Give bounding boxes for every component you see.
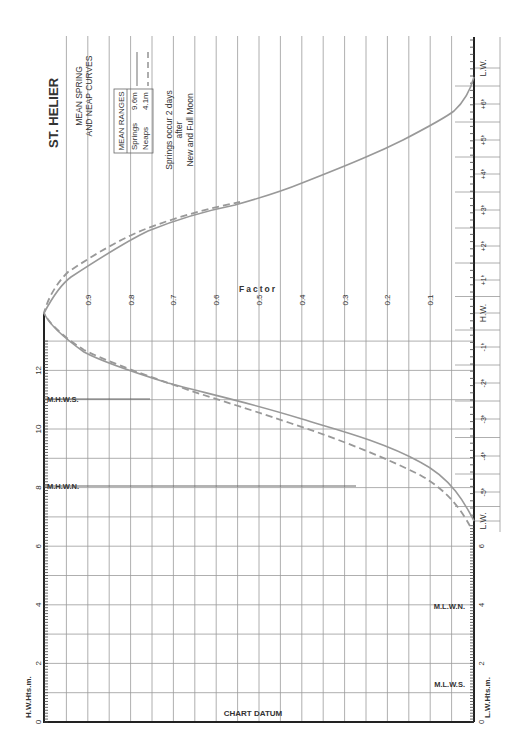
- neaps-curve: [44, 202, 470, 526]
- hw-height-tick-labels: 024681012: [34, 365, 43, 724]
- tidal-curve-chart: ST. HELIER MEAN SPRING AND NEAP CURVES M…: [0, 0, 527, 756]
- mhwn-marker: M.H.W.N.: [44, 482, 356, 491]
- legend-springs-label: Springs: [130, 123, 139, 150]
- chart-subtitle-1: MEAN SPRING: [74, 66, 84, 126]
- hw-height-tick-label: 8: [34, 485, 43, 490]
- time-tick-label-major: L.W.: [478, 512, 488, 529]
- lw-height-tick-label: 4: [477, 603, 486, 607]
- time-tick-label: +1ʰ: [480, 274, 487, 285]
- lw-height-tick-label: 2: [477, 661, 486, 665]
- time-tick-label: +6ʰ: [480, 98, 487, 109]
- note-line-1: Springs occur 2 days: [164, 90, 174, 169]
- mlwn-label: M.L.W.N.: [434, 602, 465, 611]
- mlws-label: M.L.W.S.: [434, 680, 465, 689]
- note-line-3: New and Full Moon: [185, 93, 195, 167]
- time-tick-label: -5ʰ: [480, 487, 487, 496]
- hw-height-tick-label: 2: [34, 661, 43, 666]
- factor-tick-label: 0.8: [127, 294, 136, 306]
- hw-height-tick-label: 6: [34, 543, 43, 548]
- factor-tick-labels: 0.90.80.70.60.50.40.30.20.1: [84, 294, 435, 306]
- factor-tick-label: 0.2: [383, 294, 392, 306]
- legend-springs-value: 9.6m: [130, 92, 139, 110]
- time-tick-label: +3ʰ: [480, 204, 487, 215]
- lw-height-tick-label: 6: [477, 544, 486, 548]
- time-tick-labels: L.W.+6ʰ+5ʰ+4ʰ+3ʰ+2ʰ+1ʰH.W.-1ʰ-2ʰ-3ʰ-4ʰ-5…: [478, 59, 488, 529]
- legend-title: MEAN RANGES: [117, 91, 126, 150]
- axes: [43, 37, 474, 722]
- factor-tick-label: 0.7: [169, 294, 178, 306]
- grid: [44, 36, 500, 722]
- lw-height-axis-label: L.W.Hts.m.: [483, 677, 492, 718]
- springs-note: Springs occur 2 days after New and Full …: [164, 90, 195, 169]
- hw-height-axis-label: H.W.Hts.m.: [24, 676, 33, 718]
- chart-subtitle-2: AND NEAP CURVES: [84, 55, 94, 136]
- factor-tick-label: 0.6: [212, 294, 221, 306]
- factor-tick-label: 0.3: [341, 294, 350, 306]
- time-tick-label: -4ʰ: [480, 451, 487, 460]
- chart-title: ST. HELIER: [46, 77, 61, 148]
- mhws-label: M.H.W.S.: [47, 395, 79, 404]
- factor-axis-label: Factor: [239, 284, 277, 294]
- factor-tick-label: 0.5: [255, 294, 264, 306]
- mhwn-label: M.H.W.N.: [47, 482, 79, 491]
- factor-tick-label: 0.4: [298, 294, 307, 306]
- title-block: ST. HELIER MEAN SPRING AND NEAP CURVES: [46, 55, 94, 148]
- time-tick-label: +4ʰ: [480, 168, 487, 179]
- hw-height-tick-label: 4: [34, 602, 43, 607]
- factor-tick-label: 0.9: [84, 294, 93, 306]
- time-tick-label-major: L.W.: [478, 59, 488, 76]
- chart-datum-label: CHART DATUM: [224, 709, 283, 718]
- time-tick-label: +5ʰ: [480, 134, 487, 145]
- legend: MEAN RANGES Springs 9.6m Neaps 4.1m: [114, 52, 153, 153]
- lw-height-tick-label: 0: [477, 720, 486, 724]
- time-tick-label-major: H.W.: [478, 304, 488, 322]
- hw-height-tick-label: 12: [34, 365, 43, 374]
- time-tick-label: -1ʰ: [480, 342, 487, 351]
- hw-height-tick-label: 10: [34, 424, 43, 433]
- legend-neaps-value: 4.1m: [141, 92, 150, 110]
- time-tick-label: -2ʰ: [480, 378, 487, 387]
- hw-height-tick-label: 0: [34, 719, 43, 724]
- legend-neaps-label: Neaps: [141, 127, 150, 150]
- time-tick-label: -3ʰ: [480, 414, 487, 423]
- factor-tick-label: 0.1: [426, 294, 435, 306]
- time-tick-label: +2ʰ: [480, 240, 487, 251]
- note-line-2: after: [174, 121, 184, 138]
